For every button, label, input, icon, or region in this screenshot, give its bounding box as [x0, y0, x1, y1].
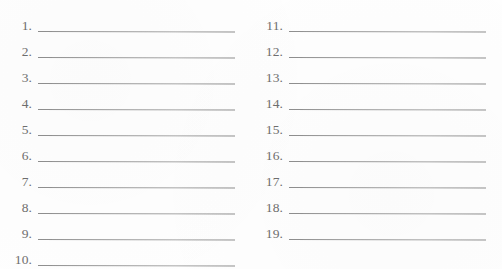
- list-item-number: 8.: [0, 200, 32, 216]
- list-item[interactable]: 14.: [251, 86, 502, 112]
- list-item-number: 4.: [0, 96, 32, 112]
- list-item[interactable]: 6.: [0, 138, 251, 164]
- list-item-write-line[interactable]: [289, 71, 486, 86]
- list-item[interactable]: 2.: [0, 34, 251, 60]
- right-column: 11.12.13.14.15.16.17.18.19.: [251, 0, 502, 269]
- list-item-number: 6.: [0, 148, 32, 164]
- list-item-number: 5.: [0, 122, 32, 138]
- list-item-write-line[interactable]: [38, 19, 235, 34]
- list-item[interactable]: 15.: [251, 112, 502, 138]
- list-item-write-line[interactable]: [289, 227, 486, 242]
- list-item-number: 9.: [0, 226, 32, 242]
- list-item-write-line[interactable]: [289, 45, 486, 60]
- list-item-number: 18.: [251, 200, 283, 216]
- list-item-write-line[interactable]: [38, 123, 235, 138]
- list-item[interactable]: 19.: [251, 216, 502, 242]
- list-item-write-line[interactable]: [38, 227, 235, 242]
- list-item-write-line[interactable]: [38, 175, 235, 190]
- list-item[interactable]: 17.: [251, 164, 502, 190]
- list-item-number: 17.: [251, 174, 283, 190]
- list-item-write-line[interactable]: [38, 201, 235, 216]
- list-item-write-line[interactable]: [38, 97, 235, 112]
- list-item-number: 12.: [251, 44, 283, 60]
- list-item[interactable]: 1.: [0, 8, 251, 34]
- list-item-write-line[interactable]: [289, 201, 486, 216]
- list-item-number: 16.: [251, 148, 283, 164]
- list-item-write-line[interactable]: [38, 149, 235, 164]
- list-item-write-line[interactable]: [289, 123, 486, 138]
- list-item-write-line[interactable]: [38, 253, 235, 268]
- list-item-write-line[interactable]: [289, 149, 486, 164]
- list-item[interactable]: 10.: [0, 242, 251, 268]
- left-column: 1.2.3.4.5.6.7.8.9.10.: [0, 0, 251, 269]
- list-item-write-line[interactable]: [289, 19, 486, 34]
- list-item-write-line[interactable]: [289, 97, 486, 112]
- list-item[interactable]: 7.: [0, 164, 251, 190]
- list-item-write-line[interactable]: [289, 175, 486, 190]
- list-item[interactable]: 4.: [0, 86, 251, 112]
- list-item-number: 2.: [0, 44, 32, 60]
- document-page: 1.2.3.4.5.6.7.8.9.10. 11.12.13.14.15.16.…: [0, 0, 502, 269]
- list-item-number: 7.: [0, 174, 32, 190]
- list-item-write-line[interactable]: [38, 71, 235, 86]
- list-item-number: 11.: [251, 18, 283, 34]
- list-item[interactable]: 16.: [251, 138, 502, 164]
- list-item[interactable]: 3.: [0, 60, 251, 86]
- list-item[interactable]: 8.: [0, 190, 251, 216]
- list-item[interactable]: 9.: [0, 216, 251, 242]
- list-item[interactable]: 11.: [251, 8, 502, 34]
- list-item-number: 13.: [251, 70, 283, 86]
- list-item-number: 14.: [251, 96, 283, 112]
- list-item-number: 15.: [251, 122, 283, 138]
- list-item[interactable]: 13.: [251, 60, 502, 86]
- list-item[interactable]: 5.: [0, 112, 251, 138]
- list-item[interactable]: 12.: [251, 34, 502, 60]
- list-item[interactable]: 18.: [251, 190, 502, 216]
- list-item-number: 10.: [0, 252, 32, 268]
- list-item-number: 1.: [0, 18, 32, 34]
- list-item-number: 19.: [251, 226, 283, 242]
- list-item-write-line[interactable]: [38, 45, 235, 60]
- list-item-number: 3.: [0, 70, 32, 86]
